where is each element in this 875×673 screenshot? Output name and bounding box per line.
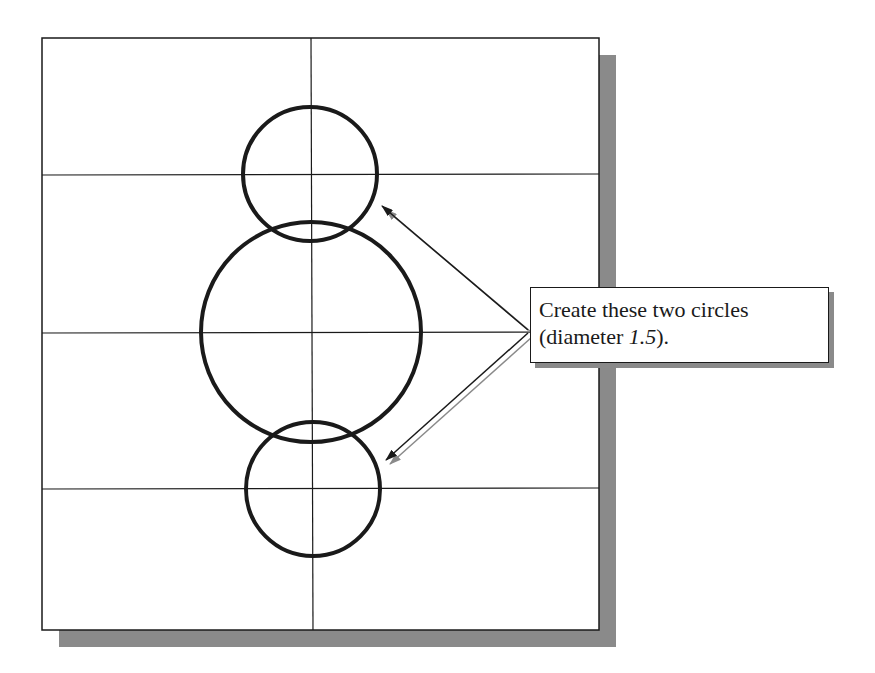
callout-line-1: Create these two circles <box>539 296 828 323</box>
callout-line-2-suffix: ). <box>656 324 669 349</box>
diameter-value: 1.5 <box>629 324 657 349</box>
callout-line-2: (diameter 1.5). <box>539 323 828 350</box>
callout-line-2-prefix: (diameter <box>539 324 629 349</box>
drawing-area <box>42 38 599 630</box>
instruction-callout: Create these two circles (diameter 1.5). <box>530 287 829 363</box>
